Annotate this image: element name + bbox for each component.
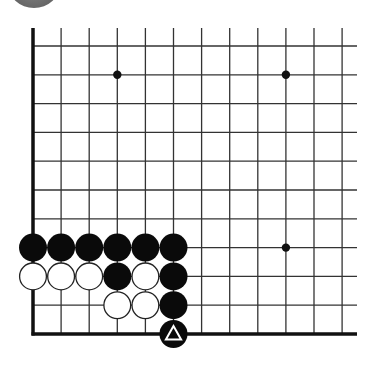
- white-stone[interactable]: [76, 263, 103, 290]
- white-stone[interactable]: [20, 263, 47, 290]
- white-stone[interactable]: [104, 292, 131, 319]
- black-stone[interactable]: [131, 234, 159, 262]
- star-point: [113, 71, 121, 79]
- black-stone[interactable]: [160, 234, 188, 262]
- black-stone[interactable]: [103, 234, 131, 262]
- black-stone[interactable]: [75, 234, 103, 262]
- star-point: [282, 243, 290, 251]
- go-board[interactable]: [0, 0, 375, 366]
- black-stone[interactable]: [47, 234, 75, 262]
- black-stone[interactable]: [160, 291, 188, 319]
- white-stone[interactable]: [48, 263, 75, 290]
- star-point: [282, 71, 290, 79]
- black-stone[interactable]: [160, 262, 188, 290]
- black-stone[interactable]: [103, 262, 131, 290]
- white-stone[interactable]: [132, 263, 159, 290]
- white-stone[interactable]: [132, 292, 159, 319]
- black-stone[interactable]: [19, 234, 47, 262]
